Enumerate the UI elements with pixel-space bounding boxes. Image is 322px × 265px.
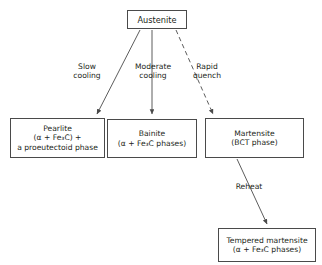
edge-label-slow-line-2: cooling xyxy=(64,72,110,81)
edge-label-moderate-cooling: Moderate cooling xyxy=(125,63,181,81)
node-austenite[interactable]: Austenite xyxy=(127,10,187,29)
node-pearlite-line-3: a proeutectoid phase xyxy=(17,143,98,152)
edge-label-slow-cooling: Slow cooling xyxy=(64,63,110,81)
edge-label-rapid-quench: Rapid quench xyxy=(184,63,230,81)
node-pearlite[interactable]: Pearlite (α + Fe₃C) + a proeutectoid pha… xyxy=(10,118,105,158)
node-bainite-line-1: Bainite xyxy=(139,129,166,138)
node-pearlite-line-1: Pearlite xyxy=(43,124,72,133)
node-tempered-line-2: (α + Fe₃C phases) xyxy=(233,245,301,254)
node-austenite-line-1: Austenite xyxy=(137,15,176,25)
edge-label-rapid-line-2: quench xyxy=(184,72,230,81)
node-tempered-line-1: Tempered martensite xyxy=(226,236,307,245)
node-martensite-line-2: (BCT phase) xyxy=(231,138,277,147)
node-bainite[interactable]: Bainite (α + Fe₃C phases) xyxy=(107,119,197,158)
edge-label-moderate-line-2: cooling xyxy=(125,72,181,81)
node-bainite-line-2: (α + Fe₃C phases) xyxy=(118,139,186,148)
node-martensite-line-1: Martensite xyxy=(234,129,275,138)
edge-label-reheat-line-1: Reheat xyxy=(225,183,273,192)
node-pearlite-line-2: (α + Fe₃C) + xyxy=(34,133,82,142)
diagram-canvas: Austenite Pearlite (α + Fe₃C) + a proeut… xyxy=(0,0,322,265)
edge-label-reheat: Reheat xyxy=(225,183,273,192)
node-tempered-martensite[interactable]: Tempered martensite (α + Fe₃C phases) xyxy=(218,228,316,262)
node-martensite[interactable]: Martensite (BCT phase) xyxy=(205,118,304,158)
